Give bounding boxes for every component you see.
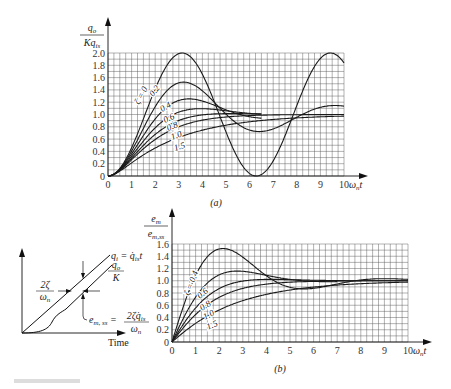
lag-label-den: ωn — [40, 291, 51, 304]
x-tick-label: 6 — [247, 179, 252, 190]
y-tick-label: 1.4 — [157, 251, 170, 262]
y-axis-label: emem,ss — [144, 213, 168, 241]
x-tick-label: 6 — [311, 345, 316, 356]
inset-x-label: Time — [108, 337, 129, 348]
curve-label: 0.6 — [195, 285, 210, 300]
x-tick-label: 10 — [403, 345, 413, 356]
x-tick-label: 0 — [106, 179, 111, 190]
curve-label: ζ = 0 — [132, 84, 150, 106]
y-axis-arrow-icon — [169, 208, 175, 217]
inset-y-arrow-icon — [19, 248, 25, 257]
y-tick-label: 0.8 — [157, 288, 170, 299]
x-tick-label: 1 — [193, 345, 198, 356]
y-tick-label: 0.2 — [157, 324, 170, 335]
lag-label-num: 2ζ — [40, 279, 50, 291]
x-tick-label: 7 — [271, 179, 276, 190]
y-tick-label: 1.0 — [93, 109, 106, 120]
y-tick-label: 1.8 — [93, 60, 106, 71]
panel-label: (b) — [274, 363, 286, 375]
svg-text:em: em — [151, 213, 161, 226]
x-axis-label: ωnt — [413, 345, 427, 358]
y-tick-label: 1.4 — [93, 84, 106, 95]
y-tick-label: 0.4 — [157, 312, 170, 323]
error-eq-den: ωn — [131, 323, 142, 336]
x-tick-label: 10 — [339, 179, 349, 190]
y-tick-label: 0.2 — [93, 158, 106, 169]
figure-caption — [14, 379, 80, 383]
y-tick-label: 0.8 — [93, 121, 106, 132]
error-label: em, ss = — [89, 314, 117, 327]
x-tick-label: 9 — [382, 345, 387, 356]
x-tick-label: 7 — [335, 345, 340, 356]
x-tick-label: 3 — [240, 345, 245, 356]
svg-text:qo: qo — [88, 22, 97, 35]
x-tick-label: 8 — [294, 179, 299, 190]
y-tick-label: 1.6 — [93, 72, 106, 83]
x-tick-label: 4 — [200, 179, 205, 190]
plot-b-ramp-error-response: 01234567891000.20.40.60.81.01.21.41.6ωnt… — [144, 208, 432, 375]
x-tick-label: 4 — [264, 345, 269, 356]
y-tick-label: 0.4 — [93, 146, 106, 157]
y-tick-label: 0 — [100, 171, 105, 182]
y-axis-label: qoKqis — [80, 22, 104, 50]
x-tick-label: 5 — [224, 179, 229, 190]
y-tick-label: 1.2 — [157, 263, 170, 274]
x-tick-label: 5 — [288, 345, 293, 356]
x-axis-label: ωnt — [349, 179, 363, 192]
inset-ramp-diagram: qi = q̇istqoK2ζωnem, ss =2ζq̇isωnTime — [19, 248, 149, 348]
x-tick-label: 8 — [358, 345, 363, 356]
svg-text:em,ss: em,ss — [148, 228, 165, 241]
x-tick-label: 2 — [217, 345, 222, 356]
x-tick-label: 2 — [153, 179, 158, 190]
x-tick-label: 1 — [129, 179, 134, 190]
y-axis-arrow-icon — [105, 17, 111, 26]
y-tick-label: 0.6 — [93, 134, 106, 145]
x-tick-label: 0 — [170, 345, 175, 356]
y-tick-label: 0 — [164, 337, 169, 348]
output-label-den: K — [112, 272, 121, 283]
inset-x-arrow-icon — [117, 330, 126, 336]
y-tick-label: 0.6 — [157, 300, 170, 311]
x-tick-label: 3 — [176, 179, 181, 190]
plot-a-step-response: 01234567891000.20.40.60.81.01.21.41.61.8… — [80, 17, 368, 209]
y-tick-label: 1.0 — [157, 275, 170, 286]
panel-label: (a) — [210, 197, 222, 209]
figure-canvas: 01234567891000.20.40.60.81.01.21.41.61.8… — [0, 0, 451, 389]
x-tick-label: 9 — [318, 179, 323, 190]
error-eq-num: 2ζq̇is — [127, 310, 146, 323]
y-tick-label: 1.2 — [93, 97, 106, 108]
